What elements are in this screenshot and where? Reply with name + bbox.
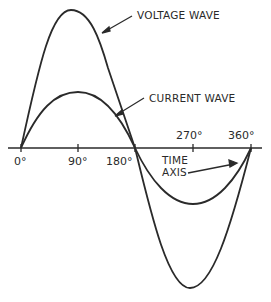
current-arrowhead-icon bbox=[115, 110, 123, 116]
voltage-arrowhead-icon bbox=[102, 27, 110, 33]
time-axis-label-line2: AXIS bbox=[162, 166, 187, 178]
tick-label-0: 0° bbox=[14, 155, 27, 168]
sine-wave-diagram: VOLTAGE WAVE CURRENT WAVE TIME AXIS 0° 9… bbox=[0, 0, 271, 302]
tick-label-270: 270° bbox=[176, 129, 203, 142]
tick-label-180: 180° bbox=[106, 155, 133, 168]
time-axis-arrowhead-icon bbox=[229, 160, 237, 167]
voltage-wave-label: VOLTAGE WAVE bbox=[137, 9, 220, 21]
time-axis-label-line1: TIME bbox=[161, 154, 188, 166]
current-wave-label: CURRENT WAVE bbox=[149, 92, 235, 104]
diagram-svg: VOLTAGE WAVE CURRENT WAVE TIME AXIS 0° 9… bbox=[0, 0, 271, 302]
tick-label-90: 90° bbox=[68, 155, 88, 168]
time-axis-arrow bbox=[188, 164, 234, 173]
tick-label-360: 360° bbox=[228, 129, 255, 142]
